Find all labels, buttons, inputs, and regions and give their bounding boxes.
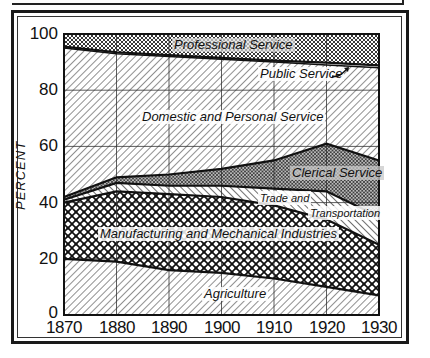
label-manufacturing: Manufacturing and Mechanical Industries	[98, 227, 339, 241]
public-service-arrow-icon	[330, 64, 354, 80]
y-tick-100: 100	[18, 24, 58, 44]
x-tick-1890: 1890	[145, 318, 193, 338]
label-clerical-service: Clerical Service	[290, 166, 384, 180]
y-tick-80: 80	[18, 80, 58, 100]
x-tick-1930: 1930	[355, 318, 403, 338]
label-trade-and: Trade and	[258, 191, 311, 205]
x-tick-1900: 1900	[198, 318, 246, 338]
label-professional-service: Professional Service	[172, 38, 295, 52]
y-tick-20: 20	[18, 249, 58, 269]
label-transportation: Transportation	[308, 206, 382, 220]
y-axis-label: PERCENT	[13, 141, 28, 210]
x-tick-1880: 1880	[93, 318, 141, 338]
x-tick-1870: 1870	[40, 318, 88, 338]
label-agriculture: Agriculture	[202, 287, 268, 301]
x-tick-1910: 1910	[250, 318, 298, 338]
x-tick-1920: 1920	[303, 318, 351, 338]
label-domestic-personal-service: Domestic and Personal Service	[140, 110, 325, 124]
